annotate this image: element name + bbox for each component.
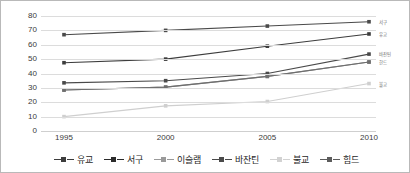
legend-label: 유교 <box>77 153 93 166</box>
data-point-marker <box>266 75 270 79</box>
data-point-marker <box>62 81 66 85</box>
series-line-이슬램 <box>64 62 369 90</box>
legend-label: 바잔틴 <box>235 153 259 166</box>
legend-item-유교[interactable]: 유교 <box>54 153 93 166</box>
data-point-marker <box>367 20 371 24</box>
x-tick-label-2005: 2005 <box>258 133 276 142</box>
data-point-marker <box>367 82 371 86</box>
y-tick-label-70: 70 <box>7 26 37 34</box>
gridline-60 <box>41 45 376 46</box>
y-tick-label-20: 20 <box>7 98 37 106</box>
end-label-한드: 한드 <box>379 60 387 65</box>
x-axis: 1995200020052010 <box>41 133 376 145</box>
gridline-30 <box>41 88 376 89</box>
data-point-marker <box>367 52 371 56</box>
gridline-80 <box>41 16 376 17</box>
legend-label: 이슬램 <box>177 153 201 166</box>
legend-item-불교[interactable]: 불교 <box>270 153 309 166</box>
end-label-바잔틴: 바잔틴 <box>379 52 391 57</box>
data-point-marker <box>266 24 270 28</box>
x-tick-label-2010: 2010 <box>360 133 378 142</box>
plot-area <box>41 16 376 131</box>
legend-marker-icon <box>212 155 232 164</box>
end-label-유교: 유교 <box>379 31 387 36</box>
end-label-불교: 불교 <box>379 81 387 86</box>
chart-legend: 유교서구이슬램바잔틴불교힘드 <box>1 147 410 171</box>
y-tick-label-40: 40 <box>7 70 37 78</box>
data-point-marker <box>62 61 66 65</box>
gridline-0 <box>41 131 376 132</box>
series-line-힘드 <box>64 62 369 90</box>
gridline-50 <box>41 59 376 60</box>
data-point-marker <box>62 33 66 37</box>
gridline-20 <box>41 102 376 103</box>
legend-label: 서구 <box>127 153 143 166</box>
series-end-labels: 서구유교바잔틴한드불교 <box>379 16 410 131</box>
x-tick-label-1995: 1995 <box>55 133 73 142</box>
line-chart-figure: 01020304050607080 1995200020052010 서구유교바… <box>0 0 410 173</box>
data-point-marker <box>367 60 371 64</box>
legend-item-이슬램[interactable]: 이슬램 <box>154 153 201 166</box>
legend-label: 불교 <box>293 153 309 166</box>
legend-marker-icon <box>320 155 340 164</box>
legend-marker-icon <box>54 155 74 164</box>
series-line-서구 <box>64 22 369 35</box>
x-tick-label-2000: 2000 <box>157 133 175 142</box>
legend-marker-icon <box>270 155 290 164</box>
gridline-40 <box>41 74 376 75</box>
y-axis: 01020304050607080 <box>5 16 37 131</box>
data-point-marker <box>367 32 371 36</box>
data-point-marker <box>164 79 168 83</box>
y-tick-label-10: 10 <box>7 113 37 121</box>
y-tick-label-30: 30 <box>7 84 37 92</box>
legend-label: 힘드 <box>343 153 359 166</box>
y-tick-label-50: 50 <box>7 55 37 63</box>
gridline-70 <box>41 30 376 31</box>
y-tick-label-80: 80 <box>7 12 37 20</box>
legend-item-바잔틴[interactable]: 바잔틴 <box>212 153 259 166</box>
y-tick-label-0: 0 <box>7 127 37 135</box>
legend-item-서구[interactable]: 서구 <box>104 153 143 166</box>
data-point-marker <box>164 104 168 108</box>
gridline-10 <box>41 117 376 118</box>
legend-marker-icon <box>154 155 174 164</box>
legend-marker-icon <box>104 155 124 164</box>
end-label-서구: 서구 <box>379 19 387 24</box>
y-tick-label-60: 60 <box>7 41 37 49</box>
legend-item-힘드[interactable]: 힘드 <box>320 153 359 166</box>
